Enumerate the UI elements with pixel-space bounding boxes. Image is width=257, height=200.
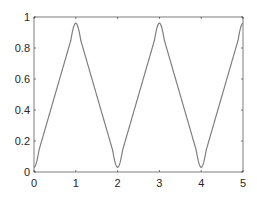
x-tick-label: 5 [240, 177, 246, 189]
line-chart: 012345 00.20.40.60.81 [0, 0, 257, 200]
x-tick-label: 1 [73, 177, 79, 189]
y-tick-label: 1 [24, 11, 30, 23]
y-axis: 00.20.40.60.81 [15, 11, 243, 178]
y-tick-label: 0.4 [15, 104, 30, 116]
y-tick-label: 0.2 [15, 135, 30, 147]
x-tick-label: 2 [115, 177, 121, 189]
series-line [34, 23, 243, 167]
x-tick-label: 3 [156, 177, 162, 189]
x-tick-label: 0 [31, 177, 37, 189]
y-tick-label: 0.8 [15, 42, 30, 54]
y-tick-label: 0 [24, 166, 30, 178]
x-axis: 012345 [31, 17, 246, 189]
y-tick-label: 0.6 [15, 73, 30, 85]
x-tick-label: 4 [198, 177, 204, 189]
